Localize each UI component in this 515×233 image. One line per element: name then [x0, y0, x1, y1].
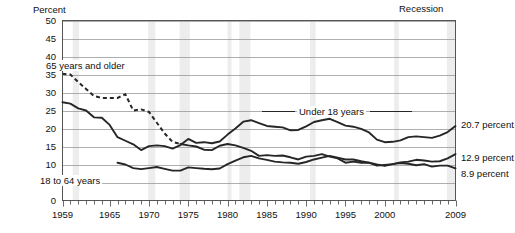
- recession-band: [447, 21, 456, 201]
- y-axis-tick-label: 45: [30, 33, 56, 44]
- series-label-18-to-64: 18 to 64 years: [38, 175, 102, 186]
- x-axis-tick-label: 1965: [88, 209, 132, 220]
- recession-bands: [73, 21, 456, 201]
- y-axis-tick-label: 20: [30, 123, 56, 134]
- y-axis-tick-label: 10: [30, 159, 56, 170]
- end-value-label-65-and-older: 8.9 percent: [461, 168, 509, 179]
- x-axis-tick-label: 1959: [41, 209, 85, 220]
- x-axis-tick-label: 1980: [206, 209, 250, 220]
- recession-band: [239, 21, 250, 201]
- y-axis-tick-label: 25: [30, 105, 56, 116]
- x-axis-tick-label: 1985: [245, 209, 289, 220]
- x-axis-tick-label: 2000: [363, 209, 407, 220]
- chart-canvas: [0, 0, 515, 233]
- series-label-under-18: Under 18 years: [297, 106, 366, 117]
- x-axis-tick-label: 2009: [434, 209, 478, 220]
- y-axis-tick-label: 0: [30, 195, 56, 206]
- end-value-label-under-18: 20.7 percent: [461, 119, 514, 130]
- x-axis-tick-label: 1990: [284, 209, 328, 220]
- x-axis-tick-label: 1970: [127, 209, 171, 220]
- x-axis-tick-label: 1975: [166, 209, 210, 220]
- x-axis-tick-label: 1995: [323, 209, 367, 220]
- y-axis-tick-label: 30: [30, 87, 56, 98]
- series-label-65-and-older: 65 years and older: [44, 60, 127, 71]
- y-axis-tick-label: 15: [30, 141, 56, 152]
- poverty-rate-line-chart: Percent Recession 50454035302520151050 1…: [0, 0, 515, 233]
- recession-band: [73, 21, 79, 201]
- end-value-label-18-to-64: 12.9 percent: [461, 152, 514, 163]
- recession-band: [394, 21, 399, 201]
- recession-band: [180, 21, 190, 201]
- y-axis-tick-label: 50: [30, 15, 56, 26]
- recession-band: [148, 21, 155, 201]
- x-axis-tick-marks: [64, 201, 457, 207]
- recession-band: [228, 21, 232, 201]
